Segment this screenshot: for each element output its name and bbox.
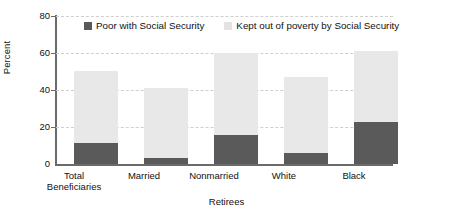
y-tick-label-60: 60 <box>22 48 50 58</box>
bar-segment-poor-with-social-security <box>214 135 258 164</box>
stacked-bar-chart: Percent 80 60 40 20 0 <box>0 0 453 214</box>
tick-60 <box>51 53 56 54</box>
y-tick-label-0: 0 <box>22 159 50 169</box>
y-tick-label-20: 20 <box>22 122 50 132</box>
bar-segment-kept-out-of-poverty <box>74 71 118 144</box>
gridline-80 <box>56 16 393 17</box>
tick-80 <box>51 16 56 17</box>
bar-segment-poor-with-social-security <box>74 143 118 164</box>
legend-label-kept-out-of-poverty: Kept out of poverty by Social Security <box>236 20 399 31</box>
bar-segment-poor-with-social-security <box>144 158 188 164</box>
legend-label-poor-with-social-security: Poor with Social Security <box>96 20 204 31</box>
legend-swatch-dark-icon <box>84 22 92 30</box>
legend-item-kept-out-of-poverty: Kept out of poverty by Social Security <box>224 20 399 31</box>
chart-legend: Poor with Social Security Kept out of po… <box>84 20 399 31</box>
x-tick-label-line2: Beneficiaries <box>26 181 122 192</box>
bar-segment-kept-out-of-poverty <box>284 77 328 153</box>
y-tick-label-80: 80 <box>22 11 50 21</box>
plot-area <box>56 16 393 164</box>
legend-swatch-light-icon <box>224 22 232 30</box>
y-axis-title: Percent <box>1 13 12 103</box>
bar-segment-kept-out-of-poverty <box>354 51 398 122</box>
bar-segment-kept-out-of-poverty <box>144 88 188 158</box>
bar-segment-poor-with-social-security <box>354 122 398 164</box>
bar-segment-kept-out-of-poverty <box>214 53 258 135</box>
legend-item-poor-with-social-security: Poor with Social Security <box>84 20 204 31</box>
bar-segment-poor-with-social-security <box>284 153 328 164</box>
x-axis-title: Retirees <box>0 196 453 207</box>
tick-40 <box>51 90 56 91</box>
tick-20 <box>51 127 56 128</box>
y-tick-label-40: 40 <box>22 85 50 95</box>
x-tick-label-black: Black <box>306 170 402 181</box>
x-axis-line <box>55 164 393 166</box>
